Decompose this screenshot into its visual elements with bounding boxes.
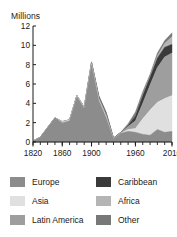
plot-area: 024681012 18201860190019602010: [0, 20, 177, 165]
legend-item-label: Latin America: [32, 215, 84, 225]
legend-item-label: Caribbean: [118, 177, 157, 187]
x-tick-label: 1900: [82, 148, 101, 158]
x-axis-ticks: 18201860190019602010: [24, 142, 177, 158]
legend-item-label: Africa: [118, 196, 140, 206]
legend-item-europe[interactable]: Europe: [10, 172, 84, 191]
legend-swatch-icon: [96, 196, 111, 206]
legend-swatch-icon: [10, 215, 25, 225]
y-tick-label: 6: [25, 79, 30, 89]
legend-column-right: CaribbeanAfricaOther: [96, 172, 157, 229]
stacked-area-plot: 024681012 18201860190019602010: [0, 20, 177, 165]
legend-swatch-icon: [96, 177, 111, 187]
area-series-group: [33, 33, 172, 142]
y-tick-label: 10: [21, 40, 31, 50]
legend-swatch-icon: [10, 196, 25, 206]
immigration-area-chart-figure: Millions 024681012 18201860190019602010 …: [0, 0, 177, 237]
legend-item-caribbean[interactable]: Caribbean: [96, 172, 157, 191]
x-tick-label: 2010: [163, 148, 177, 158]
y-tick-label: 2: [25, 118, 30, 128]
legend-column-left: EuropeAsiaLatin America: [10, 172, 84, 229]
legend-item-asia[interactable]: Asia: [10, 191, 84, 210]
y-tick-label: 4: [25, 98, 30, 108]
legend-swatch-icon: [10, 177, 25, 187]
x-tick-label: 1860: [53, 148, 72, 158]
legend-item-other[interactable]: Other: [96, 210, 157, 229]
legend-item-latin-america[interactable]: Latin America: [10, 210, 84, 229]
x-tick-label: 1820: [24, 148, 43, 158]
y-tick-label: 8: [25, 60, 30, 70]
legend-item-label: Asia: [32, 196, 49, 206]
y-tick-label: 0: [25, 137, 30, 147]
legend-swatch-icon: [96, 215, 111, 225]
legend-item-label: Europe: [32, 177, 59, 187]
legend-item-africa[interactable]: Africa: [96, 191, 157, 210]
y-tick-label: 12: [21, 21, 31, 31]
chart-legend: EuropeAsiaLatin America CaribbeanAfricaO…: [0, 172, 177, 234]
legend-item-label: Other: [118, 215, 139, 225]
y-axis-ticks: 024681012: [21, 21, 36, 147]
x-tick-label: 1960: [126, 148, 145, 158]
